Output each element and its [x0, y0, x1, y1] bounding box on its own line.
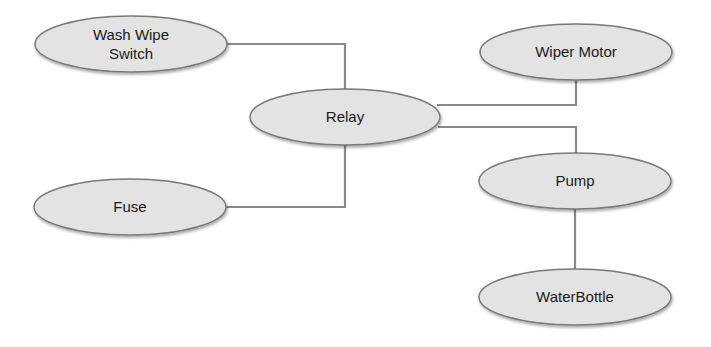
connector-relay-to-pump — [438, 127, 576, 153]
nodes: Wash WipeSwitchRelayWiper MotorFusePumpW… — [34, 16, 672, 325]
node-label: Switch — [109, 45, 153, 62]
node-label: Relay — [326, 108, 365, 125]
connector-relay-to-wiper-motor — [437, 80, 576, 105]
node-wiper-motor: Wiper Motor — [480, 24, 672, 80]
wiring-diagram: Wash WipeSwitchRelayWiper MotorFusePumpW… — [0, 0, 711, 347]
node-label: Wiper Motor — [535, 43, 617, 60]
connectors — [226, 44, 576, 269]
node-pump: Pump — [479, 153, 671, 209]
node-label: Wash Wipe — [93, 26, 169, 43]
node-label: Pump — [555, 172, 594, 189]
node-fuse: Fuse — [34, 179, 226, 235]
diagram-svg: Wash WipeSwitchRelayWiper MotorFusePumpW… — [0, 0, 711, 347]
node-label: Fuse — [113, 198, 146, 215]
node-relay: Relay — [250, 89, 440, 145]
connector-wash-wipe-switch-to-relay — [227, 44, 345, 89]
connector-relay-to-fuse — [226, 145, 345, 207]
node-wash-wipe-switch: Wash WipeSwitch — [35, 16, 227, 72]
node-label: WaterBottle — [536, 288, 614, 305]
node-water-bottle: WaterBottle — [479, 269, 671, 325]
